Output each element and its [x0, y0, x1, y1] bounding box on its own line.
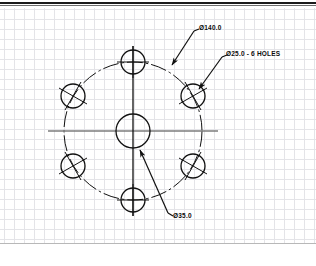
annotation-center-bore-dia: Ø35.0 [173, 212, 192, 219]
leader-hole [199, 57, 222, 89]
leader-bolt-circle [172, 31, 194, 65]
annotation-bolt-circle-dia: Ø140.0 [199, 24, 222, 31]
hole-crosshair-3-b [185, 152, 201, 180]
hole-crosshair-2-b [185, 82, 201, 110]
hole-crosshair-5-b [65, 152, 81, 180]
annotation-hole-dia-count: Ø25.0 - 6 HOLES [226, 50, 280, 57]
hole-crosshair-6-b [65, 82, 81, 110]
cad-drawing-canvas: Ø140.0 Ø25.0 - 6 HOLES Ø35.0 [0, 0, 316, 266]
drawing-geometry [0, 0, 316, 266]
